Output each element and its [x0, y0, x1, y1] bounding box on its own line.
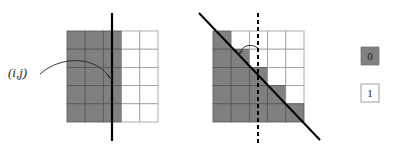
grid-cell: [268, 67, 286, 85]
grid-cell: [231, 67, 249, 85]
grid-cell: [140, 31, 158, 49]
legend-label-zero: 0: [367, 50, 373, 62]
grid-cell: [67, 49, 85, 67]
grid-cell: [85, 86, 103, 104]
grid-cell: [268, 49, 286, 67]
grid-cell: [213, 104, 231, 122]
grid-cell: [122, 67, 140, 85]
grid-cell: [140, 67, 158, 85]
grid-cell: [67, 104, 85, 122]
legend: 0 1: [361, 47, 379, 102]
grid-cell: [67, 86, 85, 104]
grid-cell: [85, 67, 103, 85]
grid-cell: [213, 31, 231, 49]
grid-cell: [249, 31, 267, 49]
grid-cell: [213, 49, 231, 67]
grid-cell: [122, 31, 140, 49]
grid-cell: [268, 104, 286, 122]
grid-cell: [231, 86, 249, 104]
legend-label-one: 1: [367, 87, 373, 99]
grid-cell: [286, 67, 304, 85]
grid-cell: [213, 67, 231, 85]
grid-cell: [67, 67, 85, 85]
grid-cell: [140, 49, 158, 67]
grid-cell: [231, 31, 249, 49]
grid-cell: [286, 49, 304, 67]
grid-cell: [140, 86, 158, 104]
grid-cell: [249, 86, 267, 104]
grid-cell: [122, 86, 140, 104]
cell-index-label: (i,j): [8, 65, 27, 80]
grid-cell: [286, 31, 304, 49]
grid-cell: [213, 86, 231, 104]
grid-cell: [67, 31, 85, 49]
grid-cell: [85, 31, 103, 49]
grid-cell: [286, 86, 304, 104]
grid-cell: [140, 104, 158, 122]
grid-cell: [122, 104, 140, 122]
grid-cell: [268, 31, 286, 49]
diagram: (i,j) 0 1: [0, 0, 398, 147]
grid-cell: [231, 104, 249, 122]
grid-cell: [85, 104, 103, 122]
grid-cell: [122, 49, 140, 67]
